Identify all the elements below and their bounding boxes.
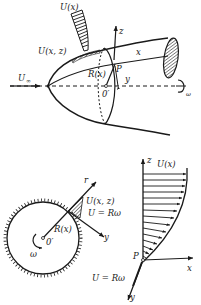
label-U-xz-left: U(x, z) xyxy=(86,196,114,206)
x-axis-right xyxy=(143,258,193,260)
label-U-x-right: U(x) xyxy=(157,159,176,169)
profile-arrows xyxy=(143,174,186,258)
label-y-left: y xyxy=(103,232,109,242)
label-U-inf: U xyxy=(18,73,26,83)
label-P-right: P xyxy=(132,251,139,261)
rotation-arrow-left xyxy=(33,234,42,248)
label-y-right: y xyxy=(129,292,135,302)
bottom-right-panel: z U(x) P x U = Rω y xyxy=(92,155,193,302)
rear-section xyxy=(161,37,180,79)
label-r: r xyxy=(84,175,89,185)
label-R-x-left: R(x) xyxy=(53,224,72,234)
z-axis-top xyxy=(114,26,116,60)
top-panel: U(x) U(x, z) U ∞ z x P R(x) y 0′ ω xyxy=(10,2,191,135)
label-x-top: x xyxy=(136,47,141,57)
velocity-profile-curve xyxy=(143,168,187,262)
surface-boundary-layer xyxy=(72,50,100,63)
label-U-eq-left: U = Rω xyxy=(88,208,121,218)
label-U-x: U(x) xyxy=(60,2,79,12)
label-U-xz: U(x, z) xyxy=(38,46,66,56)
label-U-eq-right: U = Rω xyxy=(92,273,125,283)
outer-velocity-profile xyxy=(71,10,88,51)
bottom-left-panel: r U(x, z) U = Rω y R(x) 0′ ω xyxy=(5,175,121,276)
label-x-right: x xyxy=(187,263,192,273)
label-P-top: P xyxy=(115,64,122,74)
radius-line-top xyxy=(106,64,115,86)
label-O-prime-top: 0′ xyxy=(102,89,109,99)
label-y-top: y xyxy=(124,74,130,84)
label-omega-top: ω xyxy=(186,90,191,97)
label-z-top: z xyxy=(118,26,124,36)
boundary-layer-diagram: U(x) U(x, z) U ∞ z x P R(x) y 0′ ω r U(x… xyxy=(0,0,201,305)
label-R-x-top: R(x) xyxy=(87,69,106,79)
label-omega-left: ω xyxy=(30,249,37,259)
label-O-prime-left: 0′ xyxy=(46,237,53,247)
label-U-inf-sub: ∞ xyxy=(26,77,31,84)
label-z-right: z xyxy=(146,155,152,165)
